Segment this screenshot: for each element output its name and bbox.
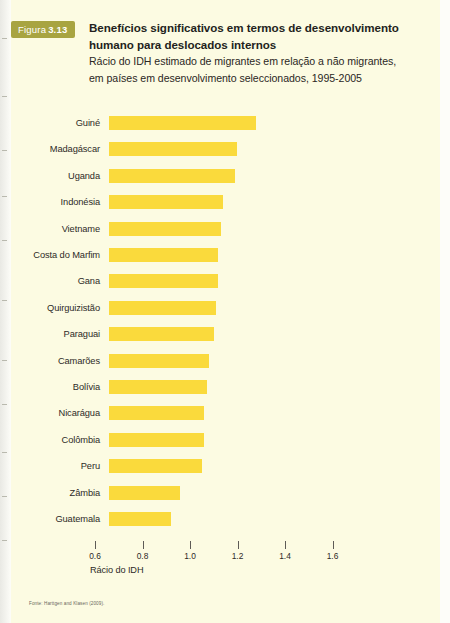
figure-badge-word: Figura <box>18 24 46 35</box>
figure-subtitle-line-1: Rácio do IDH estimado de migrantes em re… <box>89 53 438 70</box>
bar-category-label: Guatemala <box>0 514 100 524</box>
bar <box>109 486 180 500</box>
bar-category-label: Gana <box>0 276 100 286</box>
bar-row: Gana <box>0 268 450 294</box>
page-edge-mark <box>2 38 7 39</box>
bar <box>109 380 207 394</box>
bar <box>109 327 214 341</box>
bar-category-label: Zâmbia <box>0 488 100 498</box>
x-axis-tick-label: 1.2 <box>232 551 244 561</box>
x-axis-tick <box>95 541 96 549</box>
bar <box>109 169 235 183</box>
bar-row: Costa do Marfim <box>0 242 450 268</box>
bar-row: Uganda <box>0 163 450 189</box>
x-axis-tick-label: 0.8 <box>137 551 149 561</box>
bar-category-label: Bolívia <box>0 382 100 392</box>
bar-chart-plot: GuinéMadagáscarUgandaIndonésiaVietnameCo… <box>0 108 450 578</box>
bar-row: Guatemala <box>0 506 450 532</box>
bar-category-label: Madagáscar <box>0 144 100 154</box>
x-axis-title: Rácio do IDH <box>90 565 143 575</box>
bar <box>109 406 204 420</box>
bar-row: Indonésia <box>0 189 450 215</box>
x-axis-tick-label: 0.6 <box>89 551 101 561</box>
figure-subtitle-line-2: em países em desenvolvimento seleccionad… <box>89 70 438 87</box>
x-axis-tick-label: 1.0 <box>184 551 196 561</box>
bar <box>109 512 171 526</box>
bar <box>109 248 218 262</box>
bar <box>109 354 209 368</box>
figure-number-badge: Figura3.13 <box>11 21 75 38</box>
bar-category-label: Uganda <box>0 171 100 181</box>
bar-row: Nicarágua <box>0 400 450 426</box>
x-axis-tick <box>333 541 334 549</box>
bar-row: Colômbia <box>0 427 450 453</box>
source-note: Fonte: Harttgen and Klasen (2009). <box>29 601 104 606</box>
figure-title-block: Benefícios significativos em termos de d… <box>89 20 438 86</box>
bar-category-label: Colômbia <box>0 435 100 445</box>
bar <box>109 116 256 130</box>
figure-title-line-1: Benefícios significativos em termos de d… <box>89 20 438 37</box>
x-axis-tick <box>143 541 144 549</box>
page-background: Figura3.13 Benefícios significativos em … <box>0 0 450 623</box>
bar-category-label: Indonésia <box>0 197 100 207</box>
bar <box>109 274 218 288</box>
bar-row: Zâmbia <box>0 480 450 506</box>
bar <box>109 142 237 156</box>
figure-header: Figura3.13 Benefícios significativos em … <box>11 20 438 38</box>
x-axis-tick <box>238 541 239 549</box>
bar-row: Quirguizistão <box>0 295 450 321</box>
bar-category-label: Costa do Marfim <box>0 250 100 260</box>
bar <box>109 195 223 209</box>
bar-row: Paraguai <box>0 321 450 347</box>
x-axis: Rácio do IDH 0.60.81.01.21.41.6 <box>0 541 450 581</box>
bar <box>109 301 216 315</box>
bar <box>109 433 204 447</box>
x-axis-tick <box>190 541 191 549</box>
bar-row: Peru <box>0 453 450 479</box>
bar-category-label: Camarões <box>0 356 100 366</box>
x-axis-tick-label: 1.6 <box>327 551 339 561</box>
bar-category-label: Paraguai <box>0 329 100 339</box>
bar-category-label: Peru <box>0 461 100 471</box>
figure-title-line-2: humano para deslocados internos <box>89 37 438 54</box>
x-axis-tick-label: 1.4 <box>279 551 291 561</box>
bar-category-label: Nicarágua <box>0 408 100 418</box>
bar-row: Guiné <box>0 110 450 136</box>
page-edge-mark <box>2 96 7 97</box>
bar-row: Madagáscar <box>0 136 450 162</box>
bar-row: Bolívia <box>0 374 450 400</box>
figure-badge-number: 3.13 <box>48 24 67 35</box>
bar-category-label: Guiné <box>0 118 100 128</box>
bar <box>109 459 202 473</box>
bar-row: Camarões <box>0 348 450 374</box>
bar-category-label: Quirguizistão <box>0 303 100 313</box>
bar <box>109 222 221 236</box>
x-axis-tick <box>285 541 286 549</box>
bar-category-label: Vietname <box>0 224 100 234</box>
bar-row: Vietname <box>0 216 450 242</box>
